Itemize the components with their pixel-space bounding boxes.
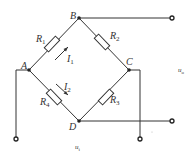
terminal-output-bottom <box>170 119 174 123</box>
wire-a-input <box>16 70 29 139</box>
node-a-dot <box>27 68 31 72</box>
resistor-label-r2: R2 <box>109 30 120 43</box>
node-label-b: B <box>70 10 76 21</box>
stray-mark <box>152 132 153 133</box>
resistor-label-r4: R4 <box>39 96 50 109</box>
terminal-input-right <box>138 137 142 141</box>
voltage-label-output: uo <box>178 66 185 75</box>
resistor-r2 <box>94 34 109 50</box>
resistor-label-r1: R1 <box>35 33 46 46</box>
node-label-a: A <box>20 60 28 71</box>
node-b-dot <box>77 16 81 20</box>
terminal-output-top <box>170 16 174 20</box>
node-label-c: C <box>126 56 133 67</box>
voltage-label-input: ui <box>75 143 81 152</box>
bridge-circuit-diagram: B A C D R1 R2 R3 R4 I1 I2 uo ui <box>0 0 193 165</box>
node-label-d: D <box>68 121 77 132</box>
resistor-label-r3: R3 <box>109 94 120 107</box>
resistor-r1 <box>44 36 59 52</box>
node-c-dot <box>127 68 131 72</box>
terminal-input-left <box>14 137 18 141</box>
current-label-i1: I1 <box>66 53 74 66</box>
node-d-dot <box>77 119 81 123</box>
wire-c-input <box>129 70 140 139</box>
